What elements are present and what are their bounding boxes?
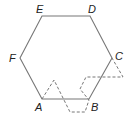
hexagon: [20, 16, 112, 99]
vertex-label-b: B: [91, 101, 98, 113]
dashed-path: [42, 58, 123, 112]
vertex-label-d: D: [88, 3, 96, 15]
vertex-label-a: A: [34, 101, 42, 113]
vertex-label-e: E: [36, 3, 44, 15]
vertex-labels: A B C D E F: [9, 3, 123, 113]
vertex-label-c: C: [115, 50, 123, 62]
hexagon-diagram: A B C D E F: [0, 0, 133, 117]
vertex-label-f: F: [9, 52, 17, 64]
